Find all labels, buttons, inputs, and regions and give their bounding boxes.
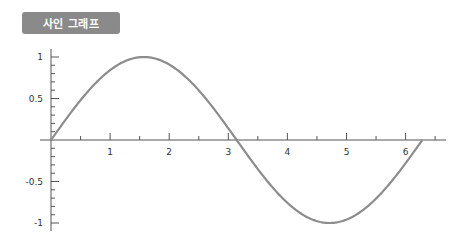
x-tick-label: 2 (166, 147, 172, 157)
axes (40, 49, 446, 231)
y-tick-label: -0.5 (25, 177, 43, 187)
x-tick-label: 4 (285, 147, 291, 157)
x-tick-label: 6 (403, 147, 409, 157)
y-tick-label: -1 (34, 218, 43, 228)
x-tick-label: 5 (344, 147, 350, 157)
sine-chart: 12345610.5-0.5-1 (0, 0, 470, 246)
x-tick-label: 3 (225, 147, 231, 157)
y-tick-label: 0.5 (29, 94, 43, 104)
x-tick-label: 1 (107, 147, 113, 157)
y-tick-label: 1 (37, 52, 43, 62)
